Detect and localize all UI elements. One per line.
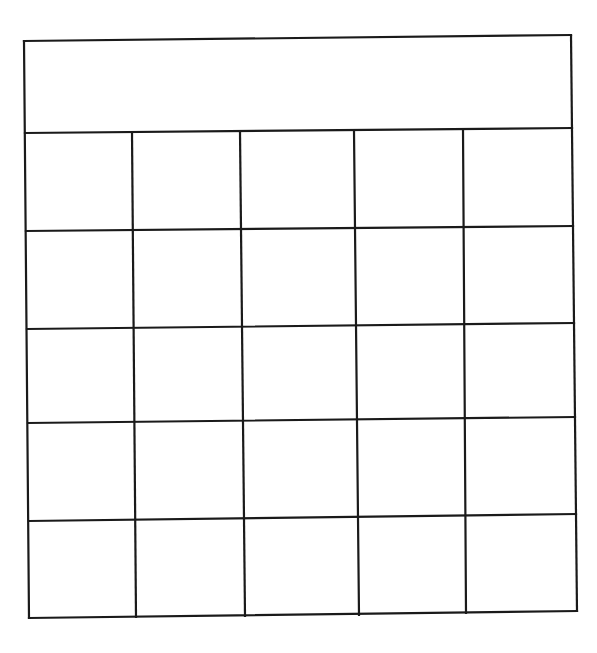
row-divider-3 xyxy=(28,417,575,423)
column-divider-3 xyxy=(354,131,359,615)
column-divider-1 xyxy=(132,133,136,617)
column-divider-4 xyxy=(463,129,466,613)
row-divider-1 xyxy=(26,226,573,231)
blank-grid-figure xyxy=(0,0,597,653)
horizontal-lines xyxy=(24,35,577,618)
outer-bottom-border xyxy=(29,611,577,618)
row-divider-2 xyxy=(27,323,574,329)
column-divider-2 xyxy=(240,132,245,616)
header-bottom-line xyxy=(25,128,572,133)
row-divider-4 xyxy=(29,514,576,521)
outer-top-border xyxy=(24,35,571,41)
